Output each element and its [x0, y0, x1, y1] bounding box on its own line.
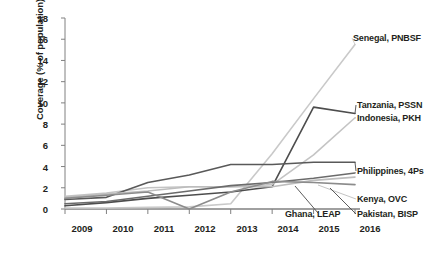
series-label-tanzania: Tanzania, PSSN: [357, 100, 422, 110]
series-label-ghana: Ghana, LEAP: [285, 209, 340, 219]
chart-container: Coverage (% of population) 18 16 14 12 1…: [0, 0, 440, 256]
series-label-indonesia: Indonesia, PKH: [357, 113, 421, 123]
series-label-philippines: Philippines, 4Ps: [357, 166, 424, 176]
axes: [61, 18, 360, 214]
series-label-pakistan: Pakistan, BISP: [357, 209, 418, 219]
series-lines: [65, 45, 355, 209]
series-label-senegal: Senegal, PNBSF: [353, 33, 421, 43]
series-label-kenya: Kenya, OVC: [357, 194, 407, 204]
